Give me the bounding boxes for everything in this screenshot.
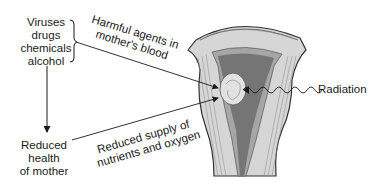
reduced-health-label: Reduced health of mother [14,139,74,178]
sources-list: Viruses drugs chemicals alcohol [18,16,74,68]
source-drugs: drugs [18,29,74,42]
radiation-label: Radiation [318,83,367,96]
source-viruses: Viruses [18,16,74,29]
source-chemicals: chemicals [18,42,74,55]
source-alcohol: alcohol [18,55,74,68]
embryo [220,73,246,105]
